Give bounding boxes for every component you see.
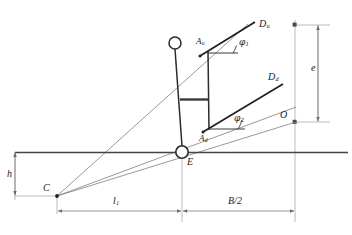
dimension-endpoint-ticks xyxy=(293,23,297,124)
line-d-lower xyxy=(203,84,283,132)
ray-c-to-o xyxy=(57,122,296,196)
label-half-beam: B/2 xyxy=(228,196,242,206)
diagram-vector-layer xyxy=(0,0,352,235)
label-point-o: O xyxy=(280,110,287,120)
label-eccentricity-e: e xyxy=(311,63,315,73)
label-point-c: C xyxy=(43,183,50,193)
tick-e-top xyxy=(293,23,297,27)
linkage-arm xyxy=(208,51,209,130)
ray-c-to-au xyxy=(57,24,248,196)
label-a-lower: Ad xyxy=(199,134,208,144)
marker-point-au xyxy=(199,55,202,58)
mast-top-pivot-circle xyxy=(169,37,181,49)
label-d-lower: Dd xyxy=(268,72,279,83)
mast-shaft xyxy=(175,49,182,146)
marker-point-c xyxy=(55,194,59,198)
label-height-h: h xyxy=(7,169,12,179)
dimension-lines xyxy=(15,26,318,211)
diagram-canvas: Du Dd Au Ad φ1 φ2 C E O h e l1 B/2 xyxy=(0,0,352,235)
label-phi1: φ1 xyxy=(239,38,249,48)
label-phi2: φ2 xyxy=(234,114,244,124)
label-point-e: E xyxy=(187,157,193,167)
label-a-upper: Au xyxy=(196,37,205,47)
construction-rays xyxy=(57,24,296,196)
label-length-l1: l1 xyxy=(113,196,119,207)
label-d-upper: Du xyxy=(259,19,270,30)
angle-arc-phi1 xyxy=(233,46,237,54)
